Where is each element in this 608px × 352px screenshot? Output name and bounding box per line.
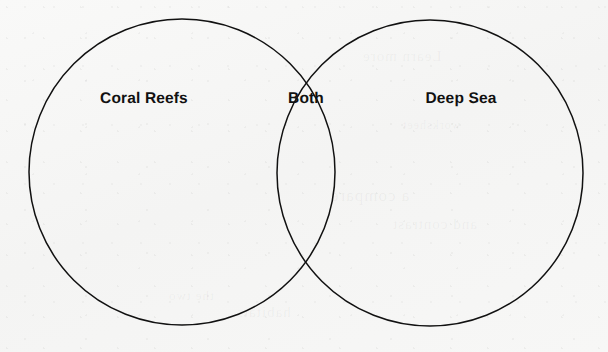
venn-diagram-svg: [0, 0, 608, 352]
venn-label-intersection: Both: [288, 91, 324, 107]
venn-circle-left: [29, 19, 335, 325]
venn-label-right: Deep Sea: [426, 91, 497, 107]
venn-circle-right: [277, 20, 583, 326]
venn-diagram-page: Learn more a compare and contrast the tw…: [0, 0, 608, 352]
venn-label-left: Coral Reefs: [100, 91, 188, 107]
